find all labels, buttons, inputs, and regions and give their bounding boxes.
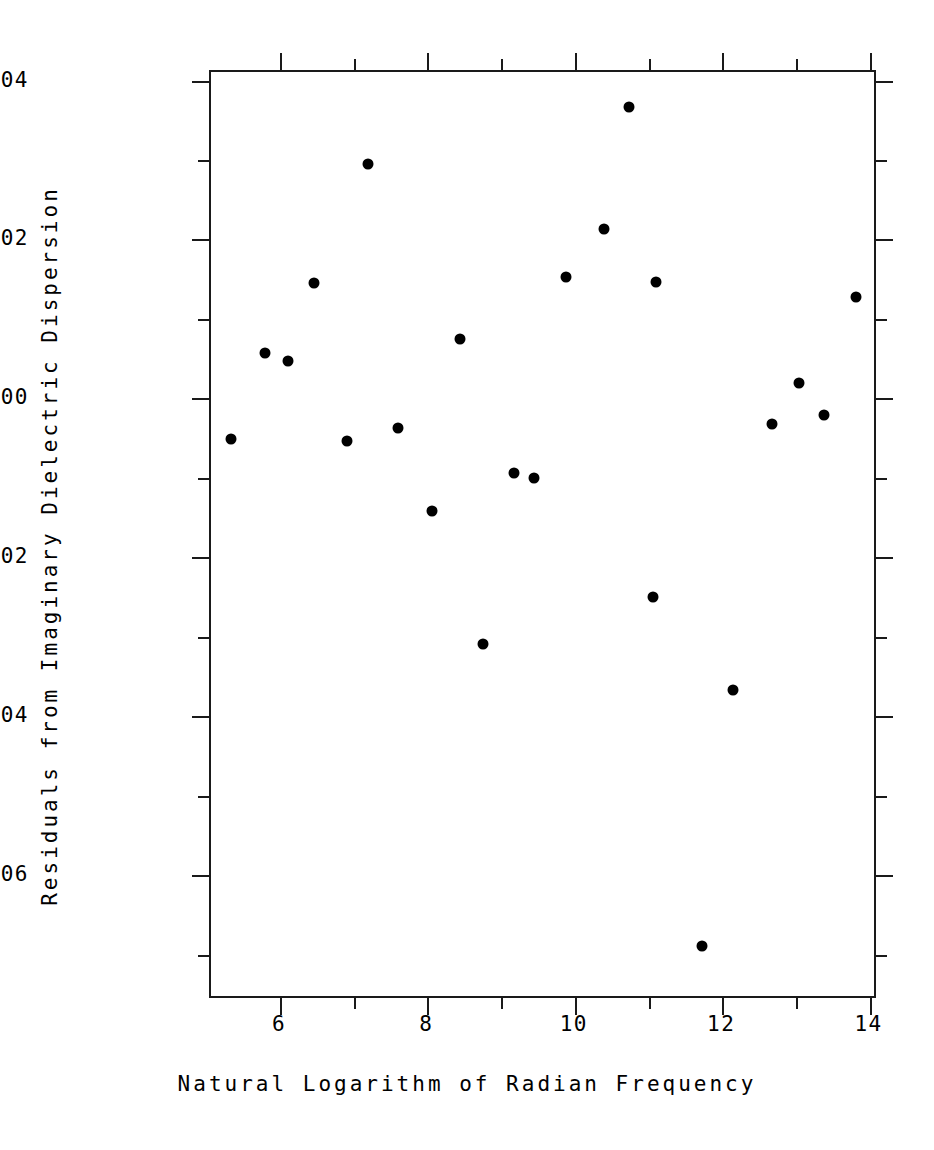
y-tick-label: 0. 000 xyxy=(0,385,29,409)
x-tick-label: 14 xyxy=(854,1012,882,1036)
data-point xyxy=(226,434,237,445)
axis-tick-minor xyxy=(198,319,211,321)
data-point xyxy=(509,467,520,478)
axis-tick-major xyxy=(874,557,893,559)
axis-tick-minor xyxy=(874,637,887,639)
data-point xyxy=(260,347,271,358)
axis-tick-major xyxy=(192,81,211,83)
data-point xyxy=(648,591,659,602)
data-point xyxy=(363,158,374,169)
axis-tick-major xyxy=(192,398,211,400)
data-point xyxy=(308,277,319,288)
data-point xyxy=(599,223,610,234)
axis-tick-minor xyxy=(874,160,887,162)
data-point xyxy=(819,409,830,420)
axis-tick-minor xyxy=(796,996,798,1009)
data-point xyxy=(697,940,708,951)
axis-tick-major xyxy=(874,81,893,83)
y-tick-label: 0. 002 xyxy=(0,226,29,250)
data-point xyxy=(728,684,739,695)
plot-area xyxy=(209,70,876,998)
data-point xyxy=(851,292,862,303)
axis-tick-minor xyxy=(198,160,211,162)
axis-tick-minor xyxy=(354,59,356,72)
axis-tick-minor xyxy=(796,59,798,72)
axis-tick-major xyxy=(192,716,211,718)
axis-tick-major xyxy=(192,239,211,241)
axis-tick-minor xyxy=(198,637,211,639)
axis-tick-minor xyxy=(198,955,211,957)
axis-tick-minor xyxy=(649,996,651,1009)
axis-tick-major xyxy=(192,557,211,559)
x-tick-label: 10 xyxy=(560,1012,588,1036)
data-point xyxy=(392,423,403,434)
y-tick-label: -0. 006 xyxy=(0,862,29,886)
y-tick-label: 0. 004 xyxy=(0,68,29,92)
x-tick-label: 6 xyxy=(272,1012,286,1036)
axis-tick-minor xyxy=(874,478,887,480)
axis-tick-major xyxy=(427,53,429,72)
x-axis-title: Natural Logarithm of Radian Frequency xyxy=(0,1072,934,1096)
axis-tick-major xyxy=(874,875,893,877)
data-point xyxy=(561,272,572,283)
data-point xyxy=(651,277,662,288)
axis-tick-major xyxy=(192,875,211,877)
axis-tick-major xyxy=(870,53,872,72)
axis-tick-minor xyxy=(874,955,887,957)
axis-tick-major xyxy=(874,716,893,718)
x-tick-label: 12 xyxy=(707,1012,735,1036)
y-tick-label: -0. 004 xyxy=(0,703,29,727)
data-point xyxy=(529,472,540,483)
axis-tick-major xyxy=(874,398,893,400)
axis-tick-minor xyxy=(501,996,503,1009)
axis-tick-major xyxy=(575,53,577,72)
axis-tick-minor xyxy=(874,319,887,321)
data-point xyxy=(282,355,293,366)
data-point xyxy=(793,378,804,389)
scatter-plot-figure: Residuals from Imaginary Dielectric Disp… xyxy=(0,0,934,1150)
axis-tick-major xyxy=(722,53,724,72)
axis-tick-minor xyxy=(198,478,211,480)
y-axis-title: Residuals from Imaginary Dielectric Disp… xyxy=(38,146,62,946)
data-point xyxy=(341,436,352,447)
axis-tick-major xyxy=(280,53,282,72)
axis-tick-minor xyxy=(354,996,356,1009)
data-point xyxy=(624,101,635,112)
data-point xyxy=(767,419,778,430)
x-tick-label: 8 xyxy=(419,1012,433,1036)
data-point xyxy=(455,333,466,344)
y-tick-label: -0. 002 xyxy=(0,544,29,568)
axis-tick-minor xyxy=(501,59,503,72)
axis-tick-minor xyxy=(874,796,887,798)
axis-tick-major xyxy=(874,239,893,241)
data-point xyxy=(478,638,489,649)
data-point xyxy=(427,505,438,516)
axis-tick-minor xyxy=(649,59,651,72)
axis-tick-minor xyxy=(198,796,211,798)
